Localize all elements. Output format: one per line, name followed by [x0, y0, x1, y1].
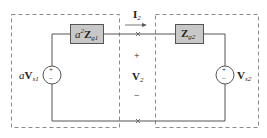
current-i2-label: I2	[133, 9, 141, 22]
impedance-sub: g2	[188, 33, 195, 41]
impedance-sub: g1	[91, 34, 98, 42]
voltage-main: V	[132, 70, 140, 82]
voltage-plus: +	[134, 51, 140, 61]
current-arrow-icon	[125, 23, 147, 27]
right-source-minus: −	[222, 76, 226, 83]
source-sub: s1	[32, 75, 38, 83]
left-source-minus: −	[49, 76, 53, 83]
impedance-a2-zg1-label: a2Zg1	[75, 28, 98, 42]
right-source-plus: +	[222, 67, 226, 74]
voltage-sub: 2	[140, 76, 144, 84]
source-sub: s2	[245, 75, 251, 83]
left-source-label: aVs1	[19, 70, 39, 83]
current-sub: 2	[137, 14, 141, 22]
voltage-v2-label: V2	[132, 71, 143, 84]
impedance-zg2-label: Zg2	[181, 28, 195, 41]
source-main: V	[237, 69, 245, 81]
right-source-label: Vs2	[237, 70, 251, 83]
voltage-minus: −	[134, 91, 140, 101]
left-source-plus: +	[49, 67, 53, 74]
